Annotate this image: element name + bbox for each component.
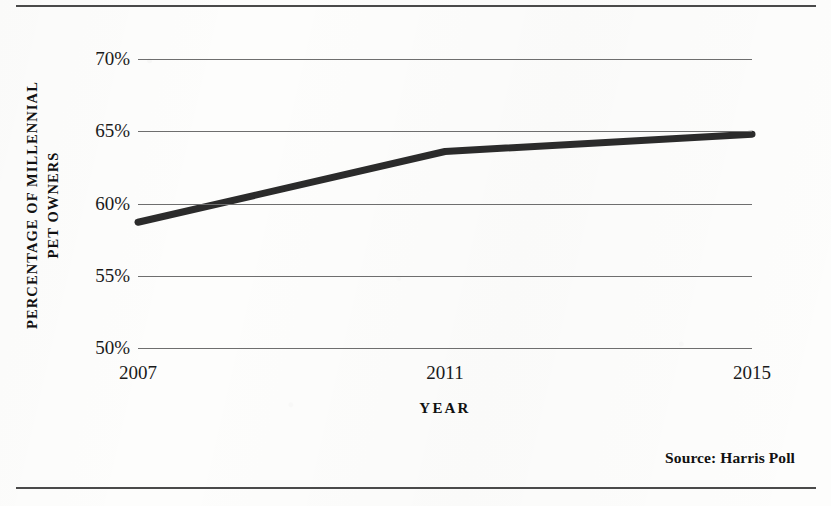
gridline-65	[138, 131, 752, 132]
source-note: Source: Harris Poll	[665, 449, 795, 467]
plot-area	[138, 59, 752, 348]
x-axis-title: YEAR	[138, 400, 752, 417]
y-tick-label-70: 70%	[95, 48, 130, 70]
bottom-horizontal-rule	[16, 487, 816, 489]
x-tick-label-2015: 2015	[733, 362, 771, 384]
series-line-0	[138, 134, 752, 222]
x-tick-label-2011: 2011	[426, 362, 463, 384]
y-axis-tick-labels: 70%65%60%55%50%	[84, 59, 130, 348]
gridline-55	[138, 276, 752, 277]
gridline-70	[138, 59, 752, 60]
y-tick-label-55: 55%	[95, 264, 130, 286]
y-axis-title: PERCENTAGE OF MILLENNIAL PET OWNERS	[14, 55, 72, 355]
y-axis-title-line-2: PET OWNERS	[43, 81, 64, 329]
y-axis-title-line-1: PERCENTAGE OF MILLENNIAL	[24, 81, 40, 329]
y-tick-label-60: 60%	[95, 192, 130, 214]
x-tick-label-2007: 2007	[119, 362, 157, 384]
y-tick-label-50: 50%	[95, 337, 130, 359]
y-tick-label-65: 65%	[95, 120, 130, 142]
gridline-60	[138, 204, 752, 205]
gridline-50	[138, 348, 752, 349]
x-axis-tick-labels: 200720112015	[138, 362, 752, 388]
top-horizontal-rule	[16, 5, 816, 7]
